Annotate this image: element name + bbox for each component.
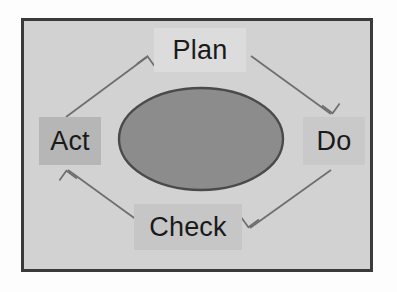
diagram-canvas: Plan Do Check Act xyxy=(0,0,397,292)
node-plan[interactable]: Plan xyxy=(154,28,246,72)
node-act[interactable]: Act xyxy=(39,117,101,165)
node-check[interactable]: Check xyxy=(134,204,242,250)
node-act-label: Act xyxy=(50,126,90,157)
node-check-label: Check xyxy=(149,212,227,243)
node-do-label: Do xyxy=(317,126,352,157)
node-do[interactable]: Do xyxy=(303,117,365,165)
node-plan-label: Plan xyxy=(173,35,228,66)
